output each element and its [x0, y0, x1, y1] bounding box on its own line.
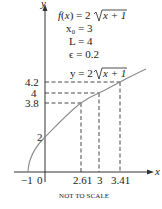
y-axis-label: y: [40, 0, 46, 9]
formula-block: f(x) = 2 x + 1 x₀ = 3 L = 4 ϵ = 0.2: [58, 9, 127, 60]
formula-radicand: x + 1: [102, 9, 126, 21]
function-curve: [28, 69, 146, 172]
x-axis-arrow-icon: [147, 170, 154, 175]
formula-epsilon: ϵ = 0.2: [69, 48, 99, 60]
curve-label: y = 2 x + 1: [70, 67, 127, 79]
x-tick-3: 3: [97, 174, 103, 186]
formula-L: L = 4: [69, 35, 93, 47]
curve-label-radicand: x + 1: [102, 67, 126, 79]
formula-function: f(x) = 2: [58, 9, 91, 22]
curve-label-prefix: y = 2: [70, 67, 93, 79]
x-tick-2.61: 2.61: [73, 174, 92, 186]
x-tick-neg1: −1: [21, 174, 33, 186]
formula-x0: x₀ = 3: [66, 22, 93, 34]
x-axis-label: x: [154, 165, 160, 177]
not-to-scale-caption: NOT TO SCALE: [59, 192, 109, 200]
y-tick-3.8: 3.8: [25, 97, 39, 109]
y-tick-labels: 4.2 4 3.8 2: [25, 76, 43, 143]
x-tick-0: 0: [37, 174, 43, 186]
x-tick-3.41: 3.41: [111, 174, 130, 186]
epsilon-delta-diagram: y x f(x) = 2 x + 1 x₀ = 3 L = 4 ϵ = 0.2 …: [0, 0, 162, 209]
x-tick-labels: −1 0 2.61 3 3.41: [21, 174, 130, 186]
y-tick-2: 2: [37, 131, 43, 143]
